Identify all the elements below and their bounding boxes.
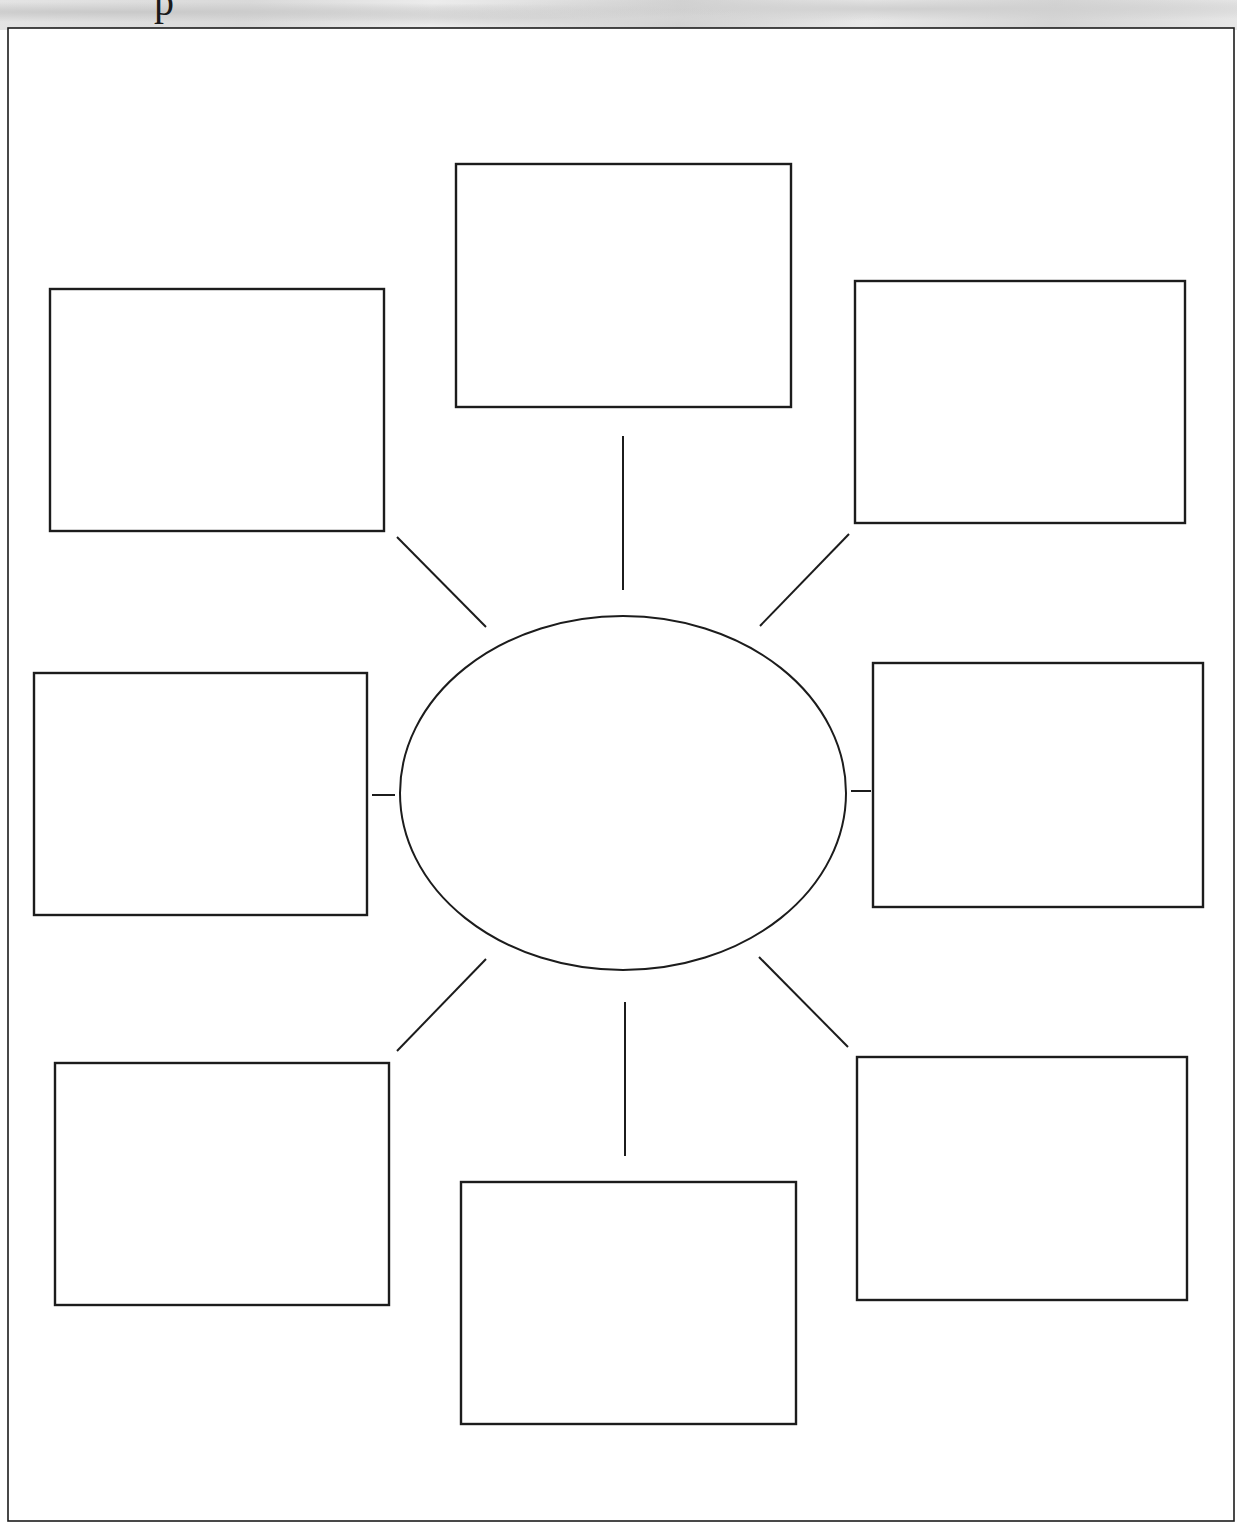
box-top[interactable] <box>456 164 791 407</box>
center-ellipse-shape[interactable] <box>400 616 846 970</box>
box-bottom[interactable] <box>461 1182 796 1424</box>
box-left[interactable] <box>34 673 367 915</box>
box-top-right[interactable] <box>855 281 1185 523</box>
box-bottom-right[interactable] <box>857 1057 1187 1300</box>
box-right[interactable] <box>873 663 1203 907</box>
box-bottom-left[interactable] <box>55 1063 389 1305</box>
web-diagram <box>0 0 1237 1529</box>
center-ellipse[interactable] <box>400 616 846 970</box>
box-top-left[interactable] <box>50 289 384 531</box>
